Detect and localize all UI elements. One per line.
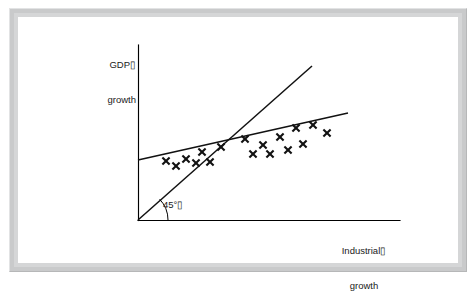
y-axis-label: GDP▯ growth	[100, 36, 136, 128]
y-axis-label-line1: GDP▯	[100, 59, 136, 71]
x-axis-label: Industrial▯ growth	[332, 222, 396, 295]
y-axis-label-line2: growth	[100, 94, 136, 106]
x-axis-label-line2: growth	[332, 280, 396, 292]
angle-label: 45°▯	[163, 199, 183, 210]
x-axis-label-line1: Industrial▯	[332, 245, 396, 257]
